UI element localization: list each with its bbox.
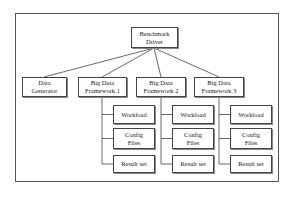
big-data-framework-3-node: Big Data Framework 3: [194, 77, 244, 97]
framework-1-result-set-node: Result set: [113, 155, 155, 173]
framework-2-workload-node: Workload: [172, 105, 214, 124]
benchmark-driver-node: Benchmark Driver: [131, 27, 178, 48]
framework-2-config-files-node: Config Files: [172, 128, 214, 149]
edge-driver-framework-2: [154, 48, 161, 77]
data-generator-node: Data Generator: [22, 77, 67, 97]
framework-3-result-set-node: Result set: [230, 155, 272, 173]
big-data-framework-1-node: Big Data Framework 1: [78, 77, 127, 97]
framework-3-config-files-node: Config Files: [230, 128, 272, 149]
edge-driver-framework-3: [154, 48, 219, 77]
framework-1-workload-node: Workload: [113, 105, 155, 124]
framework-2-result-set-node: Result set: [172, 155, 214, 173]
edge-driver-generator: [44, 48, 154, 77]
big-data-framework-2-node: Big Data Framework 2: [136, 77, 186, 97]
framework-3-workload-node: Workload: [230, 105, 272, 124]
framework-1-config-files-node: Config Files: [113, 128, 155, 149]
edge-driver-framework-1: [102, 48, 154, 77]
